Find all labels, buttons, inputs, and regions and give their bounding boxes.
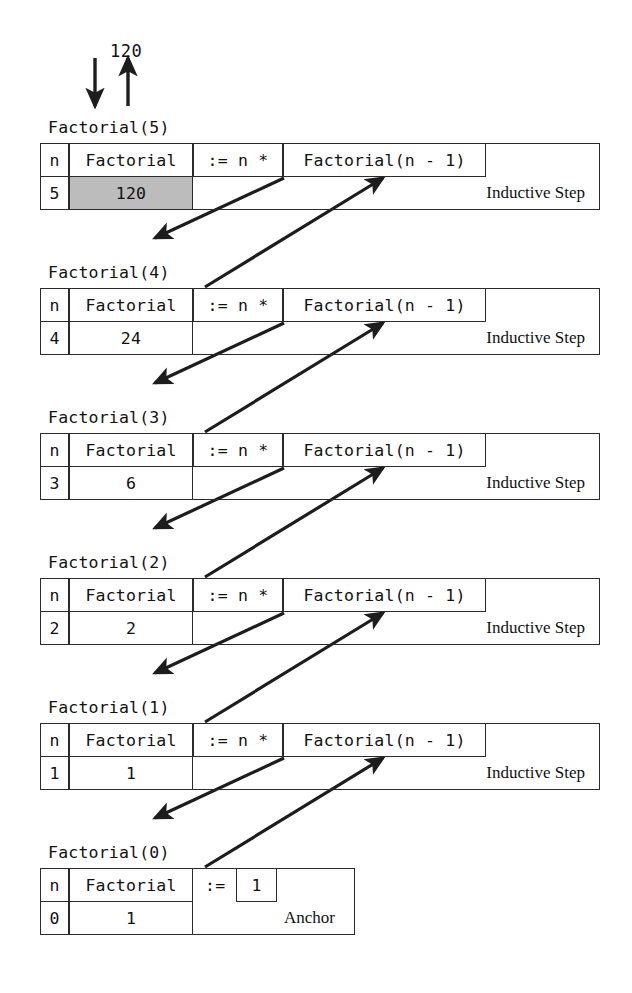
value-n: 4 xyxy=(40,321,69,355)
value-n: 2 xyxy=(40,611,69,645)
stack-frame-factorial-3[interactable]: Factorial(3) n Factorial := n * Factoria… xyxy=(40,433,600,500)
header-factorial: Factorial xyxy=(69,433,193,467)
header-factorial: Factorial xyxy=(69,723,193,757)
value-n: 5 xyxy=(40,176,69,210)
frame-kind-label: Inductive Step xyxy=(440,176,585,210)
stack-frame-factorial-0[interactable]: Factorial(0) n Factorial := 1 0 1 Anchor xyxy=(40,868,355,935)
frame-kind-label: Inductive Step xyxy=(440,611,585,645)
header-factorial: Factorial xyxy=(69,868,193,902)
header-factorial: Factorial xyxy=(69,578,193,612)
value-n: 1 xyxy=(40,756,69,790)
header-n: n xyxy=(40,433,69,467)
header-n: n xyxy=(40,288,69,322)
stack-frame-factorial-4[interactable]: Factorial(4) n Factorial := n * Factoria… xyxy=(40,288,600,355)
header-factorial: Factorial xyxy=(69,143,193,177)
value-factorial-highlighted: 120 xyxy=(69,176,193,210)
diagram-canvas: 120 Factorial(5) n Factorial := n * Fact… xyxy=(0,0,632,993)
frame-title: Factorial(2) xyxy=(48,553,170,572)
value-factorial: 24 xyxy=(69,321,193,355)
header-n: n xyxy=(40,143,69,177)
anchor-value-cell: 1 xyxy=(236,868,277,902)
header-n: n xyxy=(40,868,69,902)
value-n: 0 xyxy=(40,901,69,935)
return-value-label: 120 xyxy=(110,41,142,61)
stack-frame-factorial-2[interactable]: Factorial(2) n Factorial := n * Factoria… xyxy=(40,578,600,645)
value-n: 3 xyxy=(40,466,69,500)
assign-expression: := n * xyxy=(193,143,283,177)
frame-title: Factorial(0) xyxy=(48,843,170,862)
frame-title: Factorial(1) xyxy=(48,698,170,717)
assign-expression: := n * xyxy=(193,288,283,322)
anchor-assign-operator: := xyxy=(205,868,240,902)
recursive-call-expression: Factorial(n - 1) xyxy=(283,143,486,177)
value-factorial: 6 xyxy=(69,466,193,500)
value-factorial: 1 xyxy=(69,756,193,790)
value-factorial: 2 xyxy=(69,611,193,645)
frame-kind-label: Inductive Step xyxy=(440,321,585,355)
frame-title: Factorial(3) xyxy=(48,408,170,427)
header-n: n xyxy=(40,578,69,612)
value-factorial: 1 xyxy=(69,901,193,935)
recursive-call-expression: Factorial(n - 1) xyxy=(283,578,486,612)
frame-kind-label: Inductive Step xyxy=(440,466,585,500)
frame-kind-label: Anchor xyxy=(220,901,335,935)
frame-title: Factorial(4) xyxy=(48,263,170,282)
assign-expression: := n * xyxy=(193,723,283,757)
stack-frame-factorial-5[interactable]: Factorial(5) n Factorial := n * Factoria… xyxy=(40,143,600,210)
frame-title: Factorial(5) xyxy=(48,118,170,137)
assign-expression: := n * xyxy=(193,433,283,467)
recursive-call-expression: Factorial(n - 1) xyxy=(283,723,486,757)
stack-frame-factorial-1[interactable]: Factorial(1) n Factorial := n * Factoria… xyxy=(40,723,600,790)
recursive-call-expression: Factorial(n - 1) xyxy=(283,288,486,322)
frame-kind-label: Inductive Step xyxy=(440,756,585,790)
header-n: n xyxy=(40,723,69,757)
header-factorial: Factorial xyxy=(69,288,193,322)
assign-expression: := n * xyxy=(193,578,283,612)
recursive-call-expression: Factorial(n - 1) xyxy=(283,433,486,467)
